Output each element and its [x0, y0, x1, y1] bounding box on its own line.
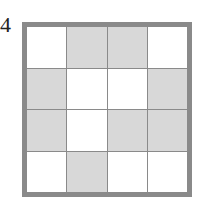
shaded-cell [108, 110, 147, 151]
shaded-cell [27, 69, 66, 110]
empty-cell [148, 27, 187, 68]
empty-cell [27, 152, 66, 193]
shaded-cell [108, 27, 147, 68]
grid-board [22, 22, 192, 197]
shaded-cell [148, 110, 187, 151]
empty-cell [108, 69, 147, 110]
figure-number: 4 [0, 14, 11, 36]
empty-cell [27, 27, 66, 68]
shaded-cell [148, 69, 187, 110]
empty-cell [148, 152, 187, 193]
shaded-cell [67, 27, 106, 68]
empty-cell [67, 110, 106, 151]
empty-cell [67, 69, 106, 110]
empty-cell [108, 152, 147, 193]
shaded-cell [27, 110, 66, 151]
shaded-cell [67, 152, 106, 193]
